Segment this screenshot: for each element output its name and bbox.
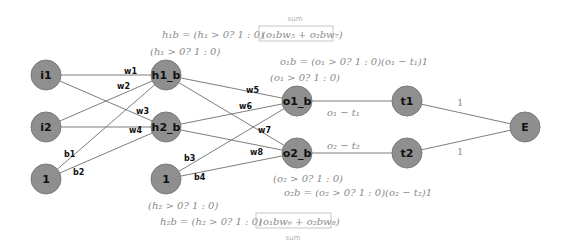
edge-label-w6: w6 <box>239 102 252 111</box>
o2b-equation: o₂b = (o₂ > 0? 1 : 0)(o₂ − t₂)1 <box>284 187 432 198</box>
o1-condition: (o₁ > 0? 1 : 0) <box>270 72 340 83</box>
edge-bias2-o1 <box>166 101 297 179</box>
edge-label-t2-E: 1 <box>457 146 463 157</box>
edge-label-w1: w1 <box>124 67 137 76</box>
node-label-o1: o1_b <box>283 95 312 108</box>
edge-label-b3: b3 <box>184 154 195 163</box>
node-label-i1: i1 <box>40 69 51 82</box>
edge-label-w8: w8 <box>250 148 263 157</box>
edge-label-o1-minus-t1: o₁ − t₁ <box>327 107 360 118</box>
h1-condition: (h₁ > 0? 1 : 0) <box>150 46 220 57</box>
node-label-h1: h1_b <box>152 69 181 82</box>
edge-label-b4: b4 <box>194 173 206 182</box>
node-label-t2: t2 <box>401 147 414 160</box>
edge-label-w4: w4 <box>129 126 142 135</box>
edge-label-o2-minus-t2: o₂ − t₂ <box>327 140 360 151</box>
backprop-network-diagram: w1 w2 w3 w4 b1 b2 w5 w6 w7 w8 b3 b4 o₁ −… <box>0 0 572 248</box>
h1b-equation-lhs: h₁b = (h₁ > 0? 1 : 0) <box>162 29 264 40</box>
edge-t2-E <box>407 127 525 153</box>
node-label-E: E <box>521 121 529 134</box>
sum-label-bottom: sum <box>286 234 301 242</box>
sum-label-top: sum <box>288 15 303 23</box>
edge-label-t1-E: 1 <box>457 97 463 108</box>
edge-label-w2: w2 <box>117 82 130 91</box>
node-label-h2: h2_b <box>152 121 181 134</box>
edge-label-b2: b2 <box>73 168 84 177</box>
node-labels: i1 i2 1 h1_b h2_b 1 o1_b o2_b t1 t2 E <box>40 69 528 186</box>
edge-label-w3: w3 <box>136 107 149 116</box>
node-label-t1: t1 <box>401 95 414 108</box>
node-label-bias-input: 1 <box>42 173 50 186</box>
node-label-i2: i2 <box>40 121 51 134</box>
node-label-o2: o2_b <box>283 147 312 160</box>
edge-t1-E <box>407 101 525 127</box>
o1b-equation: o₁b = (o₁ > 0? 1 : 0)(o₁ − t₁)1 <box>280 56 428 67</box>
h2b-equation-lhs: h₂b = (h₂ > 0? 1 : 0) <box>160 216 262 227</box>
h2b-equation-sum: (o₁bw₆ + o₂bw₈) <box>259 216 340 227</box>
edge-label-w7: w7 <box>258 126 271 135</box>
diagram-svg: w1 w2 w3 w4 b1 b2 w5 w6 w7 w8 b3 b4 o₁ −… <box>0 0 572 248</box>
o2-condition: (o₂ > 0? 1 : 0) <box>273 173 343 184</box>
edge-h2-o1 <box>166 101 297 127</box>
h1b-equation-sum: (o₁bw₅ + o₂bw₇) <box>262 29 343 40</box>
node-label-bias-hidden: 1 <box>162 173 170 186</box>
edge-label-w5: w5 <box>246 86 259 95</box>
edge-label-b1: b1 <box>64 150 76 159</box>
h2-condition: (h₂ > 0? 1 : 0) <box>148 200 218 211</box>
